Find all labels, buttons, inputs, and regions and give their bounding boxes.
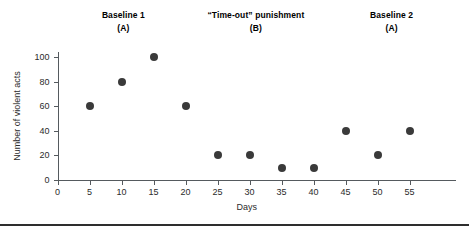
x-axis-tick [282, 181, 283, 185]
y-axis-tick [54, 131, 58, 132]
x-axis-tick-label: 40 [308, 187, 318, 197]
x-axis-tick-label: 25 [212, 187, 222, 197]
y-axis-title: Number of violent acts [12, 71, 22, 161]
bottom-rule [0, 224, 469, 226]
data-point [118, 78, 126, 86]
data-point [278, 164, 286, 172]
data-point [374, 151, 382, 159]
x-axis-tick-label: 0 [55, 187, 60, 197]
x-axis-tick [154, 181, 155, 185]
x-axis-tick [250, 181, 251, 185]
x-axis-tick-label: 15 [148, 187, 158, 197]
x-axis-tick-label: 55 [404, 187, 414, 197]
x-axis-tick-label: 5 [87, 187, 92, 197]
y-axis-tick-label: 100 [26, 52, 50, 62]
data-point [150, 53, 158, 61]
x-axis-tick-label: 50 [372, 187, 382, 197]
x-axis-tick [58, 181, 59, 185]
y-axis-tick-label: 40 [26, 126, 50, 136]
x-axis-tick [90, 181, 91, 185]
x-axis-tick-label: 20 [180, 187, 190, 197]
x-axis-tick [186, 181, 187, 185]
x-axis-tick [122, 181, 123, 185]
x-axis-line [58, 180, 457, 181]
x-axis-tick-label: 30 [244, 187, 254, 197]
y-axis-tick [54, 82, 58, 83]
y-axis-tick [54, 57, 58, 58]
data-point [406, 127, 414, 135]
y-axis-line [58, 52, 59, 181]
y-axis-tick-label: 20 [26, 150, 50, 160]
y-axis-tick-label: 80 [26, 77, 50, 87]
x-axis-tick [410, 181, 411, 185]
x-axis-tick [314, 181, 315, 185]
x-axis-title: Days [236, 202, 257, 212]
x-axis-tick-label: 45 [340, 187, 350, 197]
data-point [246, 151, 254, 159]
x-axis-tick [346, 181, 347, 185]
y-axis-tick-label: 0 [26, 175, 50, 185]
y-axis-tick [54, 155, 58, 156]
y-axis-tick-label: 60 [26, 101, 50, 111]
data-point [182, 102, 190, 110]
x-axis-tick-label: 35 [276, 187, 286, 197]
data-point [214, 151, 222, 159]
x-axis-tick-label: 10 [116, 187, 126, 197]
data-point [342, 127, 350, 135]
data-point [86, 102, 94, 110]
y-axis-tick [54, 106, 58, 107]
data-point [310, 164, 318, 172]
figure-scatter-chart: Baseline 1(A)“Time-out” punishment(B)Bas… [0, 0, 469, 231]
x-axis-tick [378, 181, 379, 185]
plot-area: 020406080100 0510152025303540455055 Days… [0, 0, 469, 231]
x-axis-tick [218, 181, 219, 185]
